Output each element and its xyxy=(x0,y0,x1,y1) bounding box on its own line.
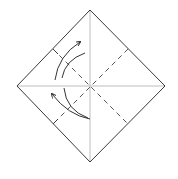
fold-down-arrow-tail xyxy=(64,88,88,118)
fold-up-arrow xyxy=(55,42,80,80)
origami-diagram xyxy=(0,0,178,179)
tick-mark-top-left xyxy=(53,49,58,54)
tick-mark-bottom-left xyxy=(53,119,58,124)
fold-up-arrow-tail xyxy=(62,53,85,78)
